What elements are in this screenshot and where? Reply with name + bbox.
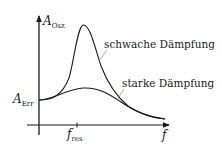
y-axis-label: AOsz: [42, 14, 65, 30]
strong-damping-label: starke Dämpfung: [122, 77, 215, 89]
excitation-amplitude-label: AErr: [12, 92, 34, 108]
weak-damping-leader-line: [99, 50, 107, 61]
weak-damping-label: schwache Dämpfung: [104, 38, 215, 50]
strong-damping-curve: [39, 88, 165, 119]
resonance-frequency-label: fres: [66, 127, 83, 143]
resonance-diagram: AOsz AErr fres f schwache Dämpfung stark…: [0, 0, 222, 152]
x-axis-label: f: [161, 128, 169, 142]
